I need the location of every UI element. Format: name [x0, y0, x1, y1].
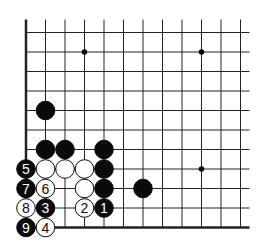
white-stone: 4 [36, 218, 55, 237]
black-stone: 5 [17, 160, 36, 179]
move-number: 2 [81, 200, 89, 216]
black-stone [95, 140, 114, 159]
go-board: 576832194 [0, 0, 263, 251]
star-point [199, 49, 205, 55]
move-number: 8 [22, 200, 30, 216]
black-stone [134, 179, 153, 198]
black-stone: 9 [17, 218, 36, 237]
black-stone [95, 179, 114, 198]
black-stone [95, 160, 114, 179]
move-number: 5 [22, 161, 30, 177]
black-stone [56, 140, 75, 159]
white-stone [75, 179, 94, 198]
white-stone [36, 160, 55, 179]
black-stone [36, 101, 55, 120]
black-stone [36, 140, 55, 159]
board-grid [26, 20, 250, 229]
move-number: 7 [22, 181, 30, 197]
white-stone: 2 [75, 199, 94, 218]
black-stone: 1 [95, 199, 114, 218]
white-stone [56, 160, 75, 179]
move-number: 3 [42, 200, 50, 216]
white-stone [75, 160, 94, 179]
move-number: 1 [100, 200, 108, 216]
move-number: 6 [42, 181, 50, 197]
white-stone: 6 [36, 179, 55, 198]
star-point [199, 166, 205, 172]
black-stone: 7 [17, 179, 36, 198]
move-number: 4 [42, 220, 50, 236]
star-point [82, 49, 88, 55]
white-stone: 8 [17, 199, 36, 218]
black-stone: 3 [36, 199, 55, 218]
move-number: 9 [22, 220, 30, 236]
